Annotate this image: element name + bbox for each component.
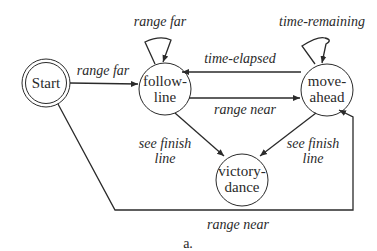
edge-label-range-near-bottom: range near <box>207 217 269 232</box>
edge-follow-line-self-loop <box>145 38 171 64</box>
state-start: Start <box>22 59 70 107</box>
edge-label-start-follow: range far <box>77 63 130 78</box>
state-follow-line-label-2: line <box>154 89 177 105</box>
edge-label-see-finish-left-1: see finish <box>139 136 192 151</box>
edge-label-time-elapsed: time-elapsed <box>204 51 277 66</box>
edge-label-see-finish-left-2: line <box>155 151 176 166</box>
state-move-ahead-label-1: move- <box>308 73 346 89</box>
state-follow-line: follow- line <box>139 63 191 115</box>
state-start-label: Start <box>32 75 61 91</box>
edge-label-follow-self: range far <box>134 14 187 29</box>
figure-caption: a. <box>183 236 193 251</box>
edge-label-time-remaining: time-remaining <box>279 14 365 29</box>
state-victory-dance-label-2: dance <box>225 179 260 195</box>
edge-move-ahead-self-loop <box>302 38 329 64</box>
state-move-ahead-label-2: ahead <box>310 89 345 105</box>
edge-label-range-near-mid: range near <box>214 102 276 117</box>
state-victory-dance: victory- dance <box>216 154 268 206</box>
state-victory-dance-label-1: victory- <box>218 163 265 179</box>
state-move-ahead: move- ahead <box>301 64 353 116</box>
state-follow-line-label-1: follow- <box>143 73 187 89</box>
edge-label-see-finish-right-1: see finish <box>287 136 340 151</box>
state-diagram: Start follow- line move- ahead victory- … <box>0 0 377 251</box>
edge-start-to-follow-line <box>70 83 138 84</box>
edge-label-see-finish-right-2: line <box>303 151 324 166</box>
